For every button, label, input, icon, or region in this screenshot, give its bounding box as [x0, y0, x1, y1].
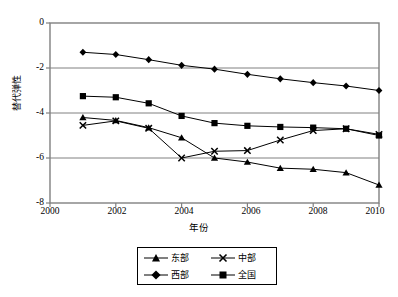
legend-item-xibu: 西部	[140, 268, 207, 281]
x-tick-label: 2010	[353, 206, 397, 216]
legend-label: 中部	[238, 251, 256, 264]
x-tick-label: 2002	[95, 206, 139, 216]
legend-label: 东部	[171, 251, 189, 264]
chart-legend: 东部 中部 西部 全国	[137, 247, 277, 285]
y-tick-label: 0	[18, 17, 44, 27]
x-axis-label: 年份	[0, 220, 398, 234]
chart-figure: 替代弹性 年份 0 -2 -4 -6 -8 2000 2002 2004 200…	[0, 0, 398, 297]
legend-symbol-triangle	[143, 252, 169, 264]
legend-item-zhongbu: 中部	[207, 251, 274, 264]
legend-symbol-diamond	[143, 269, 169, 281]
x-tick-label: 2008	[296, 206, 340, 216]
legend-item-dongbu: 东部	[140, 251, 207, 264]
y-tick-label: -4	[18, 107, 44, 117]
x-tick-label: 2006	[229, 206, 273, 216]
legend-item-quanguo: 全国	[207, 268, 274, 281]
legend-label: 全国	[238, 268, 256, 281]
x-tick-label: 2000	[28, 206, 72, 216]
legend-symbol-x	[210, 252, 236, 264]
y-tick-label: -6	[18, 152, 44, 162]
x-tick-label: 2004	[162, 206, 206, 216]
y-tick-label: -2	[18, 62, 44, 72]
legend-label: 西部	[171, 268, 189, 281]
legend-symbol-square	[210, 269, 236, 281]
